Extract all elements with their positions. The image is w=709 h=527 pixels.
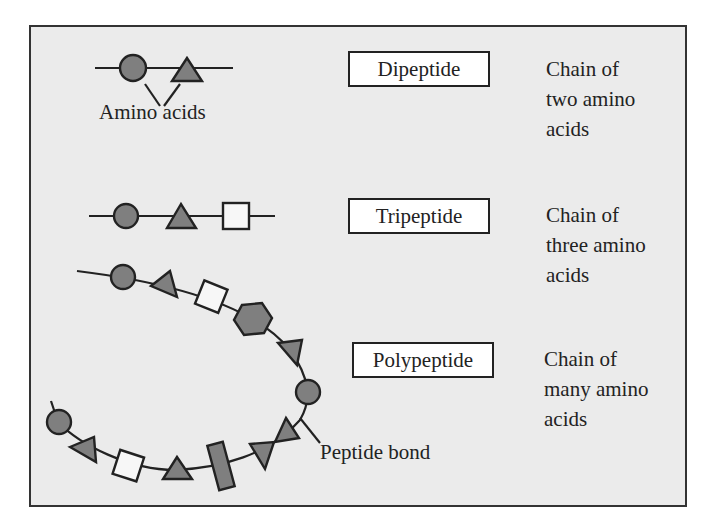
dipeptide-chain (95, 55, 233, 106)
tripeptide-description: Chain of three amino acids (546, 200, 646, 290)
description-line: acids (546, 260, 646, 290)
peptide-bond-leader-line (300, 418, 320, 443)
amino-acid-circle-icon (47, 410, 71, 434)
amino-acid-triangle-icon (250, 442, 274, 469)
description-line: acids (546, 114, 635, 144)
polypeptide-label: Polypeptide (352, 342, 494, 378)
description-line: two amino (546, 84, 635, 114)
description-line: Chain of (544, 344, 648, 374)
tripeptide-label: Tripeptide (348, 198, 490, 234)
amino-acid-triangle-icon (163, 457, 192, 479)
polypeptide-chain (47, 265, 320, 490)
amino-acid-triangle-icon (278, 340, 302, 365)
amino-acid-square-icon (113, 450, 145, 482)
amino-acids-caption: Amino acids (99, 100, 206, 125)
polypeptide-description: Chain of many amino acids (544, 344, 648, 434)
description-line: Chain of (546, 54, 635, 84)
description-line: many amino (544, 374, 648, 404)
description-line: acids (544, 404, 648, 434)
amino-acid-square-icon (223, 203, 249, 229)
amino-acid-triangle-icon (70, 437, 96, 462)
peptide-bond-caption: Peptide bond (320, 440, 430, 465)
description-line: Chain of (546, 200, 646, 230)
amino-acid-triangle-icon (275, 418, 299, 442)
dipeptide-label: Dipeptide (348, 51, 490, 87)
amino-acid-square-icon (195, 280, 228, 313)
amino-acid-circle-icon (120, 55, 146, 81)
dipeptide-description: Chain of two amino acids (546, 54, 635, 144)
amino-acid-triangle-icon (151, 271, 177, 297)
amino-acid-triangle-icon (172, 58, 202, 81)
amino-acid-circle-icon (296, 380, 320, 404)
tripeptide-chain (89, 203, 275, 229)
amino-acid-circle-icon (111, 265, 135, 289)
amino-acid-circle-icon (114, 204, 138, 228)
amino-acid-hexagon-icon (234, 303, 272, 335)
description-line: three amino (546, 230, 646, 260)
